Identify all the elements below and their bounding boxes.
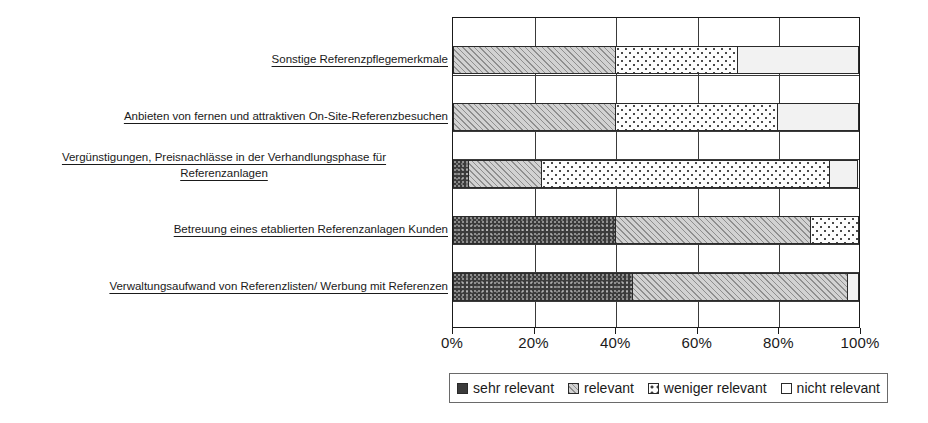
legend-item: sehr relevant [450,380,561,396]
bar-segment-nicht-relevant [737,46,859,74]
x-axis-tick-label: 40% [600,334,631,351]
bar-segment-nicht-relevant [829,160,858,188]
bar-segment-weniger-relevant [615,46,737,74]
legend-item: relevant [561,380,641,396]
bar-segment-relevant [615,216,811,244]
bar-segment-nicht-relevant [777,103,859,131]
legend-swatch-relevant [568,383,579,394]
bar-segment-nicht-relevant [847,273,859,301]
bar-segment-relevant [632,273,848,301]
legend-label: weniger relevant [664,380,767,396]
horizontal-gridline [453,131,859,132]
bar-segment-relevant [453,46,616,74]
horizontal-gridline [453,75,859,76]
chart-canvas: 0%20%40%60%80%100% Verwaltungsaufwand vo… [0,0,928,423]
x-axis-tick-label: 80% [763,334,794,351]
stacked-bar [453,160,861,188]
category-label: Anbieten von fernen und attraktiven On-S… [0,108,448,124]
bar-segment-sehr-relevant [453,160,469,188]
bar-segment-sehr-relevant [453,273,633,301]
category-label: Sonstige Referenzpflegemerkmale [0,51,448,67]
legend-label: relevant [584,380,634,396]
bar-segment-weniger-relevant [810,216,859,244]
bar-segment-relevant [468,160,541,188]
category-label: Vergünstigungen, Preisnachlässe in der V… [0,149,448,181]
bar-segment-relevant [453,103,616,131]
legend-swatch-weniger-relevant [648,383,659,394]
legend-swatch-sehr-relevant [457,383,468,394]
category-label: Verwaltungsaufwand von Referenzlisten/ W… [0,278,448,294]
x-axis-tick-label: 60% [681,334,712,351]
stacked-bar [453,273,861,301]
stacked-bar [453,103,861,131]
x-axis-tick-label: 0% [441,334,463,351]
legend-swatch-nicht-relevant [781,383,792,394]
legend-label: sehr relevant [473,380,554,396]
x-axis-tick-label: 100% [840,334,879,351]
horizontal-gridline [453,188,859,189]
stacked-bar [453,216,861,244]
horizontal-gridline [453,301,859,302]
legend-item: nicht relevant [774,380,887,396]
category-label: Betreuung eines etablierten Referenzanla… [0,221,448,237]
chart-legend: sehr relevantrelevantweniger relevantnic… [449,373,888,403]
legend-item: weniger relevant [641,380,774,396]
bar-segment-weniger-relevant [615,103,778,131]
x-axis-tick-label: 20% [518,334,549,351]
legend-label: nicht relevant [797,380,880,396]
horizontal-gridline [453,244,859,245]
bar-segment-sehr-relevant [453,216,616,244]
bar-segment-weniger-relevant [541,160,831,188]
stacked-bar [453,46,861,74]
plot-area [452,17,860,328]
